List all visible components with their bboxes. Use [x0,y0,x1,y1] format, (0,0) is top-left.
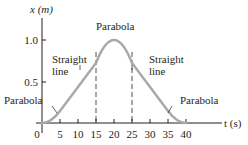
x-tick-label-30: 30 [145,128,157,140]
position-time-chart: 1.0 0.5 x (m) 0 5 10 15 20 25 30 35 40 t… [0,0,248,145]
x-tick-label-15: 15 [91,128,103,140]
x-tick-label-10: 10 [73,128,85,140]
x-tick-label-40: 40 [181,128,193,140]
label-parabola-left: Parabola [4,94,43,106]
y-tick-label-1: 1.0 [24,34,38,46]
x-tick-label-5: 5 [57,128,63,140]
label-parabola-right: Parabola [180,94,219,106]
x-tick-label-20: 20 [109,128,121,140]
label-straight-left-2: line [52,65,69,77]
y-tick-label-05: 0.5 [24,76,38,88]
label-parabola-top: Parabola [96,20,135,32]
x-tick-label-0: 0 [34,128,40,140]
label-straight-right-2: line [149,65,166,77]
x-tick-label-25: 25 [127,128,139,140]
label-straight-right-1: Straight [149,53,184,65]
label-straight-left-1: Straight [52,53,87,65]
leader-left-parabola [52,106,57,113]
x-tick-label-35: 35 [163,128,175,140]
x-axis-label: t (s) [224,117,242,130]
y-axis-label: x (m) [29,3,53,16]
x-ticks [60,119,186,123]
